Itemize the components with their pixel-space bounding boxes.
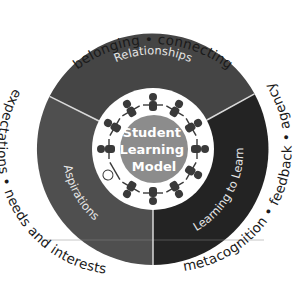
student-learning-model-diagram: Student Learning Model Relationships Lea… — [0, 0, 298, 301]
core-title-line-3: Model — [132, 159, 176, 174]
core-title-line-2: Learning — [119, 142, 184, 157]
core-title-line-1: Student — [123, 125, 181, 140]
